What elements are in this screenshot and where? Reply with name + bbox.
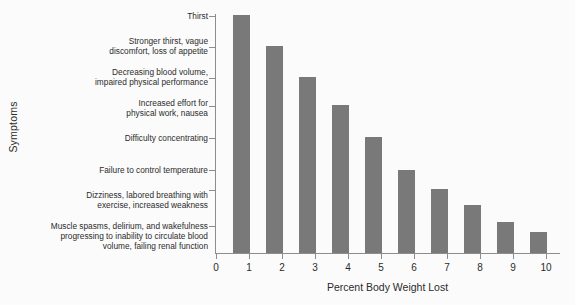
bar-4[interactable] [332, 105, 349, 253]
bar-9[interactable] [497, 222, 514, 253]
bar-5[interactable] [365, 137, 382, 253]
bar-2[interactable] [266, 46, 283, 253]
x-axis-tick [546, 254, 547, 259]
bar-8[interactable] [464, 205, 481, 253]
y-category-label-stronger-thirst: Stronger thirst, vague discomfort, loss … [24, 36, 208, 56]
bar-7[interactable] [431, 189, 448, 253]
x-axis-tick [249, 254, 250, 259]
bar-1[interactable] [233, 15, 250, 253]
x-axis-tick [282, 254, 283, 259]
x-axis-tick [414, 254, 415, 259]
bar-6[interactable] [398, 170, 415, 253]
y-category-label-difficulty-concentrating: Difficulty concentrating [24, 133, 208, 143]
x-axis-tick [480, 254, 481, 259]
y-axis-title-text: Symptoms [7, 101, 19, 152]
bar-chart-figure: Symptoms Thirst Stronger thirst, vague d… [0, 0, 575, 305]
x-axis-title: Percent Body Weight Lost [215, 281, 560, 293]
plot-area [215, 0, 560, 253]
x-axis-tick [513, 254, 514, 259]
y-axis-title: Symptoms [2, 0, 24, 253]
bar-3[interactable] [299, 77, 316, 253]
y-category-label-dizziness: Dizziness, labored breathing with exerci… [24, 190, 208, 210]
y-category-label-thirst: Thirst [24, 11, 208, 21]
y-category-label-muscle-spasms: Muscle spasms, delirium, and wakefulness… [24, 221, 208, 252]
x-axis-tick [315, 254, 316, 259]
x-axis-spine [215, 253, 560, 254]
x-tick-label-10: 10 [526, 262, 566, 273]
x-axis-tick [381, 254, 382, 259]
y-category-label-increased-effort: Increased effort for physical work, naus… [24, 98, 208, 118]
x-axis-tick [348, 254, 349, 259]
y-axis-category-labels: Thirst Stronger thirst, vague discomfort… [24, 0, 208, 253]
x-axis-tick [216, 254, 217, 259]
y-category-label-decreasing-blood-volume: Decreasing blood volume, impaired physic… [24, 67, 208, 87]
y-category-label-failure-control-temperature: Failure to control temperature [24, 165, 208, 175]
x-axis-tick [447, 254, 448, 259]
bar-10[interactable] [530, 232, 547, 253]
